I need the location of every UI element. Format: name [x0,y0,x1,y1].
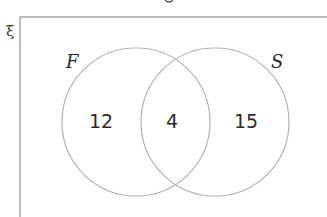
s-only-value: 15 [234,110,258,132]
f-only-value: 12 [89,110,113,132]
set-f-label: F [65,51,80,72]
set-f-circle [62,48,210,196]
intersection-value: 4 [166,110,178,132]
set-s-circle [141,48,289,196]
set-s-label: S [271,51,283,72]
venn-diagram: F S 12 4 15 [0,0,327,217]
cutoff-text-fragment [165,0,173,2]
